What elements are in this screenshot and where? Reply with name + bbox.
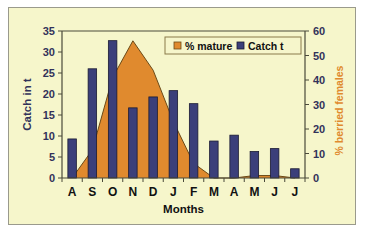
y-axis-label-right: % berried females [333, 65, 345, 155]
y-tick-label-right-0: 0 [313, 172, 319, 184]
y-tick-label-left-35: 35 [43, 25, 55, 37]
y-tick-label-left-25: 25 [43, 67, 55, 79]
bar-a-8 [230, 135, 239, 178]
x-tick-label-9: M [249, 185, 259, 199]
y-tick-label-right-10: 10 [313, 148, 325, 160]
y-tick-label-left-30: 30 [43, 46, 55, 58]
x-tick-label-0: A [68, 185, 77, 199]
bar-j-10 [270, 149, 279, 178]
bar-j-5 [169, 91, 178, 178]
x-tick-label-3: N [129, 185, 138, 199]
y-tick-label-right-60: 60 [313, 25, 325, 37]
chart-canvas: 051015202530350102030405060ASONDJFMAMJJC… [9, 8, 355, 224]
y-tick-label-left-5: 5 [49, 151, 55, 163]
chart-frame: 051015202530350102030405060ASONDJFMAMJJC… [8, 7, 356, 225]
x-tick-label-6: F [190, 185, 197, 199]
bar-f-6 [189, 104, 198, 178]
y-tick-label-right-20: 20 [313, 123, 325, 135]
legend-swatch-catch-t [237, 42, 244, 49]
bar-n-3 [129, 108, 138, 178]
x-tick-label-7: M [209, 185, 219, 199]
bar-m-9 [250, 152, 259, 178]
x-tick-label-1: S [88, 185, 96, 199]
legend-label-percent-mature: % mature [185, 40, 232, 52]
bar-s-1 [88, 69, 97, 178]
y-tick-label-left-10: 10 [43, 130, 55, 142]
y-tick-label-right-50: 50 [313, 50, 325, 62]
y-tick-label-left-20: 20 [43, 88, 55, 100]
x-tick-label-8: A [230, 185, 239, 199]
bar-d-4 [149, 97, 158, 178]
x-tick-label-2: O [108, 185, 117, 199]
bar-j-11 [291, 169, 300, 178]
y-tick-label-right-30: 30 [313, 99, 325, 111]
x-tick-label-5: J [170, 185, 177, 199]
y-tick-label-left-0: 0 [49, 172, 55, 184]
bar-a-0 [68, 139, 77, 178]
bar-o-2 [108, 41, 117, 178]
legend-swatch-percent-mature [174, 42, 181, 49]
y-tick-label-left-15: 15 [43, 109, 55, 121]
x-axis-label: Months [163, 203, 204, 215]
x-tick-label-11: J [292, 185, 299, 199]
bar-m-7 [210, 141, 219, 178]
x-tick-label-10: J [271, 185, 278, 199]
legend-label-catch-t: Catch t [248, 40, 284, 52]
x-tick-label-4: D [149, 185, 158, 199]
y-axis-label-left: Catch in t [21, 78, 33, 131]
y-tick-label-right-40: 40 [313, 74, 325, 86]
chart-svg: 051015202530350102030405060ASONDJFMAMJJC… [9, 8, 357, 226]
